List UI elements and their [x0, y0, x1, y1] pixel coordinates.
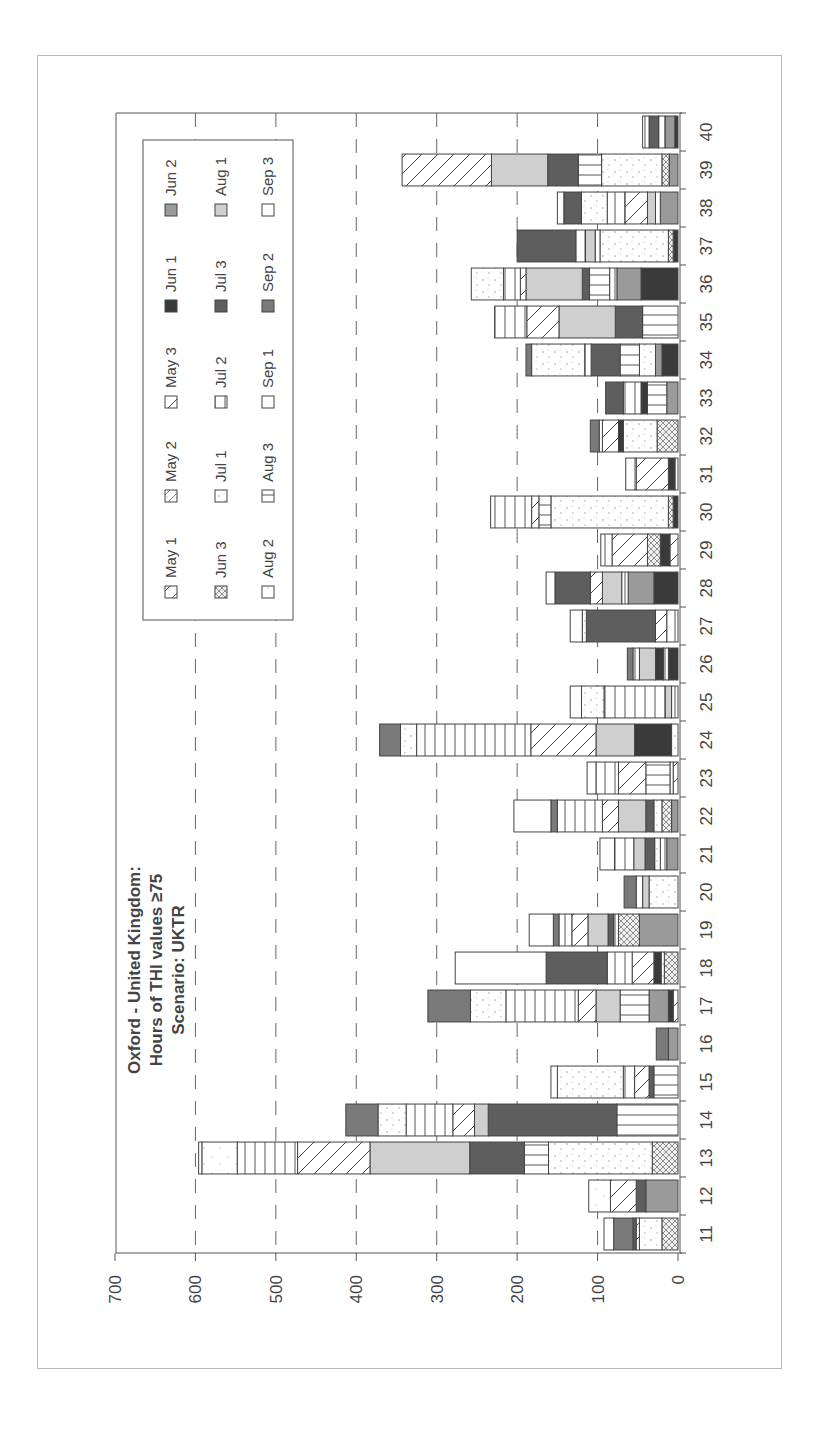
bar-segment-jun3: [668, 230, 673, 262]
bar-segment-aug3: [647, 382, 666, 414]
x-tick-label: 31: [697, 465, 716, 484]
legend-swatch-jun3: [215, 586, 227, 598]
bar-segment-jul1: [581, 686, 604, 718]
bar-segment-aug1: [602, 572, 621, 604]
bar-segment-aug3: [654, 1066, 678, 1098]
bar-segment-jul2: [596, 762, 619, 794]
legend-swatch-jun1: [165, 300, 177, 312]
bar-segment-jul2: [633, 648, 639, 680]
bar-segment-aug1: [643, 876, 649, 908]
x-tick-label: 13: [697, 1149, 716, 1168]
chart-subtitle: Hours of THI values ≥75: [147, 874, 166, 1067]
bar-segment-jun2: [672, 800, 678, 832]
bar-segment-jun3: [652, 1142, 678, 1174]
bar-segment-jul3: [646, 800, 654, 832]
bar-segment-jun1: [654, 572, 678, 604]
bar-segment-jul2: [406, 1104, 453, 1136]
bar-segment-jul1: [600, 230, 668, 262]
legend-label: May 1: [162, 537, 179, 578]
x-tick-label: 37: [697, 237, 716, 256]
legend-label: May 2: [162, 441, 179, 482]
bar-segment-jun3: [668, 496, 673, 528]
bar-segment-may3: [298, 1142, 370, 1174]
bar-segment-jul2: [604, 686, 665, 718]
bar-segment-jul2: [607, 952, 632, 984]
bar-segment-aug1: [491, 154, 547, 186]
bar-segment-jul2: [417, 724, 531, 756]
bar-segment-jun2: [665, 116, 675, 148]
legend-swatch-aug3: [262, 490, 274, 502]
bar-segment-jul3: [586, 610, 655, 642]
legend-label: Sep 3: [259, 157, 276, 196]
bar-segment-may3: [602, 420, 618, 452]
bar-segment-jun3: [662, 1218, 678, 1250]
legend-swatch-sep1: [262, 396, 274, 408]
bar-segment-sep2: [656, 1028, 668, 1060]
bar-segment-may3: [532, 496, 539, 528]
bar-segment-aug3: [539, 496, 551, 528]
bar-segment-jul2: [601, 534, 612, 566]
bar-segment-jun3: [662, 154, 669, 186]
bar-segment-jul3: [649, 1066, 654, 1098]
bar-segment-sep3: [529, 914, 553, 946]
bar-segment-jun3: [647, 534, 660, 566]
x-tick-label: 27: [697, 617, 716, 636]
bar-segment-sep3: [600, 838, 614, 870]
bar-segment-jul3: [548, 154, 579, 186]
bar-segment-jul2: [595, 230, 600, 262]
y-tick-label: 200: [508, 1275, 527, 1303]
legend-swatch-jul1: [215, 490, 227, 502]
bar-segment-sep3: [570, 610, 582, 642]
bar-segment-sep3: [514, 800, 551, 832]
x-tick-label: 20: [697, 883, 716, 902]
bar-segment-jul1: [602, 154, 662, 186]
legend-swatch-jul3: [215, 300, 227, 312]
x-tick-label: 23: [697, 769, 716, 788]
bar-segment-sep3: [570, 686, 581, 718]
x-tick-label: 11: [697, 1225, 716, 1243]
legend-label: Aug 1: [212, 157, 229, 196]
bar-segment-jun2: [649, 990, 668, 1022]
bar-segment-jun3: [657, 420, 678, 452]
bar-segment-may3: [572, 914, 588, 946]
x-tick-label: 24: [697, 731, 716, 750]
bar-segment-jun1: [654, 952, 661, 984]
bar-segment-may3: [635, 1066, 649, 1098]
bar-segment-jul2: [506, 990, 578, 1022]
bar-segment-jul1: [581, 192, 607, 224]
bar-segment-jun3: [664, 952, 678, 984]
bar-segment-may3: [453, 1104, 475, 1136]
bar-segment-aug3: [620, 344, 639, 376]
bar-segment-jul2: [660, 838, 666, 870]
bar-segment-aug1: [618, 800, 645, 832]
bar-segment-jun1: [673, 496, 678, 528]
bar-segment-jul2: [622, 572, 628, 604]
bar-segment-jun1: [641, 268, 678, 300]
legend-swatch-sep2: [262, 300, 274, 312]
bar-segment-aug1: [559, 306, 615, 338]
x-tick-label: 18: [697, 959, 716, 978]
bar-segment-jun3: [662, 800, 672, 832]
x-tick-label: 21: [697, 845, 716, 864]
y-tick-label: 300: [428, 1275, 447, 1303]
bar-segment-sep3: [455, 952, 546, 984]
bar-segment-jun1: [641, 382, 647, 414]
bar-segment-jul1: [378, 1104, 406, 1136]
bar-segment-jul1: [549, 1142, 653, 1174]
x-tick-label: 40: [697, 123, 716, 142]
bar-segment-jul2: [626, 458, 636, 490]
bar-segment-aug1: [596, 724, 635, 756]
legend-label: Aug 3: [259, 443, 276, 482]
bar-segment-jul2: [199, 1142, 202, 1174]
legend-label: Jul 2: [212, 356, 229, 388]
bar-segment-aug3: [524, 1142, 548, 1174]
bar-segment-jul3: [564, 192, 582, 224]
bar-segment-jul2: [623, 1066, 634, 1098]
x-tick-label: 15: [697, 1073, 716, 1092]
bar-segment-jun1: [668, 648, 678, 680]
bar-segment-sep2: [590, 420, 599, 452]
y-tick-label: 600: [186, 1275, 205, 1303]
bar-segment-jul1: [582, 610, 586, 642]
legend-swatch-may1: [165, 586, 177, 598]
bar-segment-jul1: [639, 344, 655, 376]
